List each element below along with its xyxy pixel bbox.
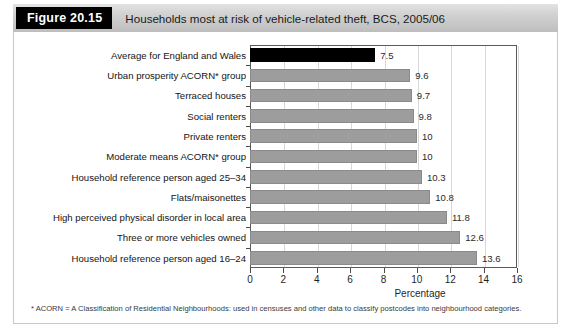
category-label: Social renters bbox=[187, 111, 246, 122]
category-label: Household reference person aged 16–24 bbox=[72, 253, 246, 264]
x-axis-tick-label: 12 bbox=[445, 274, 456, 285]
y-axis-tick bbox=[246, 86, 250, 87]
bar-value-label: 10 bbox=[422, 131, 433, 142]
bar-value-label: 7.5 bbox=[380, 50, 393, 61]
x-axis-tick bbox=[384, 268, 385, 273]
x-axis-tick-label: 6 bbox=[347, 274, 353, 285]
bar bbox=[250, 129, 417, 143]
y-axis-tick bbox=[246, 248, 250, 249]
y-axis-tick bbox=[246, 146, 250, 147]
gridline bbox=[518, 46, 519, 267]
bar bbox=[250, 109, 414, 123]
category-label: High perceived physical disorder in loca… bbox=[53, 212, 246, 223]
category-label: Terraced houses bbox=[175, 90, 246, 101]
bar-row: 11.8 bbox=[250, 207, 517, 227]
bar bbox=[250, 251, 477, 265]
y-axis-tick bbox=[246, 187, 250, 188]
bar bbox=[250, 89, 412, 103]
bar-value-label: 13.6 bbox=[482, 253, 501, 264]
bar bbox=[250, 211, 447, 225]
figure-header-band: Figure 20.15 Households most at risk of … bbox=[13, 4, 558, 32]
bar bbox=[250, 48, 375, 62]
x-axis-tick bbox=[350, 268, 351, 273]
bar-row: 9.8 bbox=[250, 106, 517, 126]
y-axis-tick bbox=[246, 126, 250, 127]
bar-row: 10 bbox=[250, 146, 517, 166]
bar bbox=[250, 69, 410, 83]
category-label: Three or more vehicles owned bbox=[117, 232, 246, 243]
y-axis-tick bbox=[246, 167, 250, 168]
bar bbox=[250, 170, 422, 184]
x-axis-tick-label: 2 bbox=[281, 274, 287, 285]
bar bbox=[250, 150, 417, 164]
bar-row: 10.3 bbox=[250, 167, 517, 187]
bar-value-label: 10.3 bbox=[427, 172, 446, 183]
x-axis-title-text: Percentage bbox=[394, 288, 445, 299]
x-axis-tick bbox=[317, 268, 318, 273]
x-axis-tick-label: 4 bbox=[314, 274, 320, 285]
bar-row: 10 bbox=[250, 126, 517, 146]
category-label: Flats/maisonettes bbox=[171, 192, 246, 203]
category-label: Average for England and Wales bbox=[111, 50, 246, 61]
figure-number-tag: Figure 20.15 bbox=[16, 7, 112, 29]
x-axis-tick bbox=[250, 268, 251, 273]
x-axis-tick-label: 10 bbox=[411, 274, 422, 285]
x-axis-tick-label: 0 bbox=[247, 274, 253, 285]
category-label: Urban prosperity ACORN* group bbox=[107, 70, 246, 81]
x-axis-tick bbox=[417, 268, 418, 273]
bar-row: 7.5 bbox=[250, 45, 517, 65]
y-axis-tick bbox=[246, 227, 250, 228]
y-axis-tick bbox=[246, 207, 250, 208]
x-axis-tick bbox=[283, 268, 284, 273]
category-label: Private renters bbox=[184, 131, 246, 142]
category-label: Moderate means ACORN* group bbox=[106, 151, 246, 162]
x-axis-title: Percentage bbox=[0, 288, 572, 299]
bar-row: 10.8 bbox=[250, 187, 517, 207]
x-axis-tick-label: 8 bbox=[381, 274, 387, 285]
figure-container: Figure 20.15 Households most at risk of … bbox=[0, 0, 572, 335]
bar-value-label: 9.8 bbox=[419, 111, 432, 122]
x-axis-tick bbox=[517, 268, 518, 273]
x-axis-tick-label: 16 bbox=[511, 274, 522, 285]
bars-layer: 7.59.69.79.8101010.310.811.812.613.6 bbox=[250, 45, 517, 268]
bar-row: 9.7 bbox=[250, 86, 517, 106]
bar-value-label: 10.8 bbox=[435, 192, 454, 203]
bar-row: 12.6 bbox=[250, 227, 517, 247]
figure-title: Households most at risk of vehicle-relat… bbox=[125, 12, 445, 25]
y-axis-tick bbox=[246, 106, 250, 107]
bar-value-label: 9.7 bbox=[417, 90, 430, 101]
y-axis-tick bbox=[246, 65, 250, 66]
bar-row: 9.6 bbox=[250, 65, 517, 85]
bar-value-label: 9.6 bbox=[415, 70, 428, 81]
x-axis-tick-label: 14 bbox=[478, 274, 489, 285]
x-axis-tick bbox=[484, 268, 485, 273]
bar-value-label: 12.6 bbox=[465, 232, 484, 243]
bar bbox=[250, 190, 430, 204]
bar-value-label: 11.8 bbox=[452, 212, 470, 223]
bar bbox=[250, 231, 460, 245]
figure-footnote: * ACORN = A Classification of Residentia… bbox=[31, 304, 521, 313]
x-axis-tick bbox=[450, 268, 451, 273]
category-label: Household reference person aged 25–34 bbox=[72, 172, 246, 183]
bar-value-label: 10 bbox=[422, 151, 433, 162]
bar-row: 13.6 bbox=[250, 248, 517, 268]
